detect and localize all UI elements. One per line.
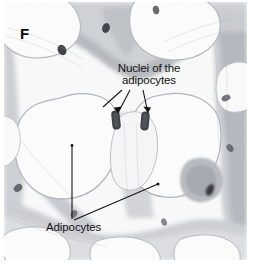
annotation-nuclei-of-the-adipocytes: Nuclei of the adipocytes [110, 62, 188, 87]
panel-letter: F [20, 26, 29, 41]
micrograph-image [4, 2, 247, 260]
figure-panel: F Nuclei of the adipocytes Adipocytes [0, 0, 260, 273]
micrograph-canvas [4, 2, 247, 260]
annotation-nuclei-line-2: adipocytes [110, 74, 188, 86]
annotation-adipocytes: Adipocytes [46, 221, 124, 233]
film-grain [4, 2, 247, 260]
annotation-nuclei-line-1: Nuclei of the [110, 62, 188, 74]
